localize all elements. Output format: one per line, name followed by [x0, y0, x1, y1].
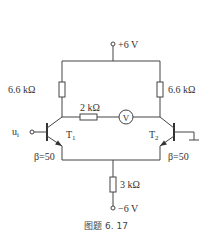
transistor-t1 — [47, 117, 62, 146]
t1-label: T1 — [66, 129, 76, 142]
voltmeter-symbol: V — [123, 113, 130, 123]
resistor-rl — [80, 114, 97, 120]
positive-supply-terminal — [111, 42, 115, 46]
negative-supply-label: −6 V — [118, 203, 139, 214]
figure-caption: 图题 6. 17 — [84, 221, 128, 231]
re-label: 3 kΩ — [120, 179, 140, 190]
transistor-t2 — [160, 117, 174, 146]
t1-beta-label: β=50 — [34, 151, 55, 162]
t2-beta-label: β=50 — [168, 151, 189, 162]
resistor-re — [110, 177, 116, 192]
input-label: ui — [12, 126, 19, 139]
resistor-rc2 — [157, 82, 163, 97]
rc2-label: 6.6 kΩ — [168, 84, 195, 95]
input-terminal — [30, 130, 34, 134]
rl-label: 2 kΩ — [80, 102, 100, 113]
circuit-diagram: +6 V 6.6 kΩ 6.6 kΩ V 2 kΩ ui T1 β=50 T2 … — [0, 0, 213, 248]
negative-supply-terminal — [111, 206, 115, 210]
positive-supply-label: +6 V — [118, 39, 139, 50]
resistor-rc1 — [59, 82, 65, 97]
t2-label: T2 — [149, 129, 159, 142]
rc1-label: 6.6 kΩ — [8, 84, 35, 95]
